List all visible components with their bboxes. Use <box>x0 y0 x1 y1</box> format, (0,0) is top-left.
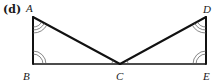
vertex-label-b: B <box>23 70 30 82</box>
segment-cd <box>120 17 206 64</box>
vertex-label-c: C <box>116 70 124 82</box>
vertex-label-d: D <box>202 3 211 15</box>
angle-mark-e <box>193 51 206 64</box>
vertex-label-a: A <box>25 2 33 14</box>
segment-ac <box>33 17 120 64</box>
angle-mark-b <box>33 51 46 64</box>
part-label: (d) <box>3 3 21 16</box>
vertex-label-e: E <box>202 70 210 82</box>
geometry-figure: (d) A B C D E <box>0 0 216 82</box>
